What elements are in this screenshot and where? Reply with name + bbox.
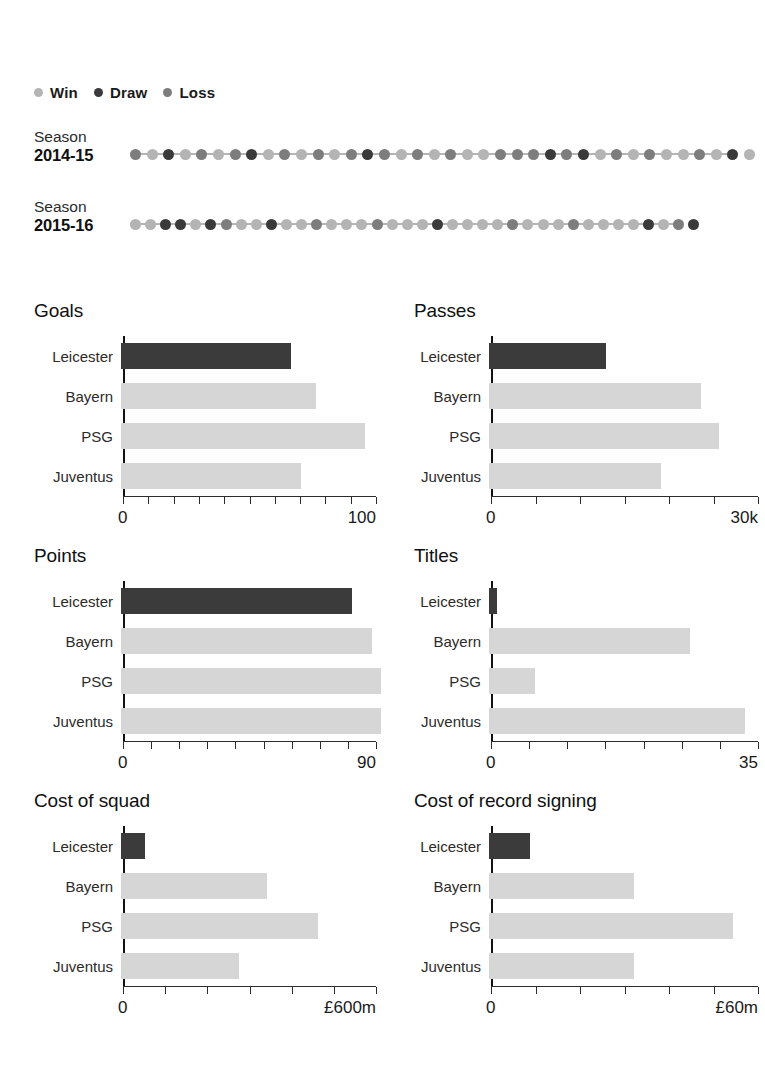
- match-dot-draw: [727, 149, 738, 160]
- axis-tick: [491, 497, 492, 504]
- axis-tick: [207, 987, 208, 994]
- match-dot-loss: [568, 219, 579, 230]
- match-dot-win: [462, 149, 473, 160]
- chart-cost-of-squad: Cost of squadLeicesterBayernPSGJuventus0…: [0, 790, 382, 1035]
- bar-leicester: [489, 588, 497, 614]
- x-axis-ticks: [491, 497, 758, 504]
- match-dot-draw: [205, 219, 216, 230]
- bar-track: [487, 383, 758, 409]
- season-label: Season 2014-15: [34, 128, 124, 165]
- bar-category-label: PSG: [34, 428, 119, 445]
- match-dot-loss: [507, 219, 518, 230]
- bar-list: LeicesterBayernPSGJuventus: [34, 581, 376, 741]
- bar-category-label: PSG: [414, 673, 487, 690]
- bar-category-label: Leicester: [34, 593, 119, 610]
- x-axis-ticks: [123, 497, 376, 504]
- axis-tick: [644, 742, 645, 749]
- bar-leicester: [121, 343, 291, 369]
- match-dot-win: [744, 149, 755, 160]
- bar-row-bayern: Bayern: [34, 873, 376, 899]
- match-dot-win: [628, 219, 639, 230]
- match-dot-loss: [412, 149, 423, 160]
- match-dot-loss: [561, 149, 572, 160]
- bar-track: [487, 343, 758, 369]
- match-dot-win: [263, 149, 274, 160]
- chart-title: Points: [34, 545, 382, 567]
- axis-tick: [580, 497, 581, 504]
- bar-juventus: [489, 463, 661, 489]
- bar-list: LeicesterBayernPSGJuventus: [34, 826, 376, 986]
- match-dot-win: [396, 149, 407, 160]
- legend-item-loss: Loss: [163, 84, 215, 101]
- x-axis-ticks: [491, 742, 758, 749]
- bar-category-label: Bayern: [414, 388, 487, 405]
- match-dot-win: [402, 219, 413, 230]
- match-dot-draw: [266, 219, 277, 230]
- chart-title: Titles: [414, 545, 764, 567]
- legend-label: Draw: [110, 84, 147, 101]
- axis-tick: [123, 497, 124, 504]
- chart-title: Cost of record signing: [414, 790, 764, 812]
- axis-min-label: 0: [486, 998, 495, 1018]
- bar-category-label: Juventus: [414, 958, 487, 975]
- chart-title: Goals: [34, 300, 382, 322]
- match-dot-list: [130, 216, 704, 232]
- axis-tick: [758, 742, 759, 749]
- axis-tick: [325, 497, 326, 504]
- bar-track: [119, 588, 376, 614]
- bar-row-juventus: Juventus: [414, 953, 758, 979]
- bar-track: [119, 383, 376, 409]
- bar-track: [487, 628, 758, 654]
- match-dot-win: [341, 219, 352, 230]
- match-dot-draw: [643, 219, 654, 230]
- axis-tick: [758, 987, 759, 994]
- bar-category-label: Juventus: [414, 713, 487, 730]
- axis-tick: [536, 987, 537, 994]
- match-dot-list: [130, 146, 761, 162]
- plot-area: LeicesterBayernPSGJuventus0100: [34, 336, 382, 496]
- match-dot-win: [387, 219, 398, 230]
- axis-tick: [529, 742, 530, 749]
- bar-juventus: [121, 463, 301, 489]
- axis-max-label: 30k: [731, 508, 758, 528]
- axis-tick: [536, 497, 537, 504]
- bar-row-psg: PSG: [34, 423, 376, 449]
- season-label: Season 2015-16: [34, 198, 124, 235]
- bar-category-label: PSG: [414, 918, 487, 935]
- bar-track: [119, 463, 376, 489]
- match-dot-win: [145, 219, 156, 230]
- season-timeline-2014-15: Season 2014-15: [34, 128, 734, 176]
- season-years: 2014-15: [34, 146, 124, 165]
- match-dot-loss: [644, 149, 655, 160]
- plot-area: LeicesterBayernPSGJuventus0£60m: [414, 826, 764, 986]
- bar-bayern: [489, 383, 701, 409]
- axis-tick: [580, 987, 581, 994]
- comparison-charts: GoalsLeicesterBayernPSGJuventus0100Passe…: [0, 300, 765, 1035]
- axis-tick: [376, 987, 377, 994]
- bar-bayern: [121, 873, 267, 899]
- bar-track: [487, 913, 758, 939]
- axis-tick: [224, 497, 225, 504]
- axis-tick: [376, 742, 377, 749]
- match-dot-win: [147, 149, 158, 160]
- match-dot-win: [711, 149, 722, 160]
- bar-row-juventus: Juventus: [414, 708, 758, 734]
- bar-track: [487, 588, 758, 614]
- bar-track: [119, 873, 376, 899]
- axis-min-label: 0: [118, 998, 127, 1018]
- axis-tick: [123, 987, 124, 994]
- chart-title: Cost of squad: [34, 790, 382, 812]
- axis-min-label: 0: [486, 753, 495, 773]
- bar-row-leicester: Leicester: [414, 833, 758, 859]
- bar-row-bayern: Bayern: [414, 628, 758, 654]
- axis-tick: [165, 987, 166, 994]
- bar-row-juventus: Juventus: [34, 463, 376, 489]
- bar-category-label: Juventus: [34, 958, 119, 975]
- bar-row-bayern: Bayern: [414, 383, 758, 409]
- bar-category-label: Bayern: [414, 633, 487, 650]
- match-dot-win: [329, 149, 340, 160]
- results-legend: WinDrawLoss: [34, 84, 215, 101]
- match-dot-draw: [246, 149, 257, 160]
- bar-psg: [489, 423, 719, 449]
- chart-row: GoalsLeicesterBayernPSGJuventus0100Passe…: [0, 300, 765, 545]
